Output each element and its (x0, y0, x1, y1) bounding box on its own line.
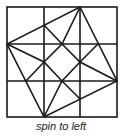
puzzle-diagram (0, 0, 122, 120)
grid (7, 7, 117, 117)
tilted-square (7, 7, 117, 117)
caption: spin to left (0, 120, 122, 132)
